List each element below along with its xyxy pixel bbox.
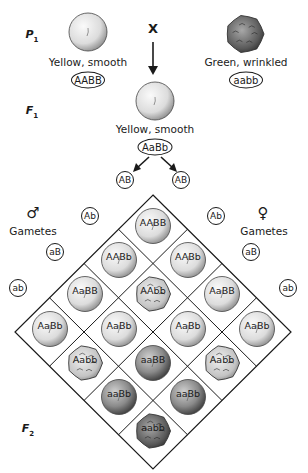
male-symbol-icon: ♂ (26, 204, 39, 222)
female-gamete: ab (279, 279, 297, 297)
male-gamete: Ab (81, 207, 99, 225)
f2-cell-genotype: aaBb (107, 388, 131, 399)
f2-cell-genotype: AaBb (245, 320, 270, 331)
f2-cell-genotype: AABb (175, 251, 201, 262)
male-gamete: AB (116, 171, 134, 189)
parent-left-phenotype: Yellow, smooth (49, 56, 127, 68)
female-gametes-label: Gametes (240, 225, 287, 237)
f2-cell-genotype: aaBB (141, 354, 166, 365)
f2-cell-genotype: AaBB (72, 285, 97, 296)
f2-cell-genotype: AAbb (140, 285, 165, 296)
male-gametes-label: Gametes (9, 225, 56, 237)
f1-phenotype: Yellow, smooth (116, 123, 194, 135)
parent-right-genotype: aabb (229, 72, 263, 89)
female-gamete: aB (242, 243, 260, 261)
p1-label: P1 (26, 28, 39, 43)
f2-cell-genotype: AABb (106, 251, 132, 262)
f2-label: F2 (22, 422, 34, 437)
f2-cell-genotype: Aabb (210, 354, 234, 365)
gamete-arrow-right (161, 157, 173, 168)
f1-label: F1 (26, 104, 38, 119)
f2-cell-genotype: aabb (141, 422, 165, 433)
arrow-head-icon (148, 66, 158, 75)
f2-cell-genotype: AaBB (209, 285, 234, 296)
parent-left-seed (69, 13, 107, 51)
f1-seed (136, 82, 174, 120)
cross-symbol: X (148, 21, 158, 36)
f2-cell-genotype: AaBb (38, 320, 63, 331)
parent-left-genotype: AABB (71, 72, 105, 89)
f2-cell-genotype: Aabb (73, 354, 97, 365)
male-gamete: aB (46, 243, 64, 261)
gamete-arrow-left (137, 157, 149, 168)
f2-cell-genotype: AaBb (107, 320, 132, 331)
dihybrid-cross-diagram: P1 F1 F2 X Yellow, smooth AABB Green, wr… (0, 0, 308, 473)
female-gamete: AB (172, 171, 190, 189)
male-gamete: ab (9, 279, 27, 297)
f2-cell-genotype: AABB (140, 217, 166, 228)
female-symbol-icon: ♀ (258, 204, 269, 222)
f1-genotype: AaBb (138, 139, 173, 156)
female-gamete: Ab (207, 207, 225, 225)
f2-cell-genotype: AaBb (176, 320, 201, 331)
parent-right-phenotype: Green, wrinkled (204, 56, 287, 68)
parent-right-seed (227, 16, 264, 53)
f2-cell-genotype: aaBb (176, 388, 200, 399)
